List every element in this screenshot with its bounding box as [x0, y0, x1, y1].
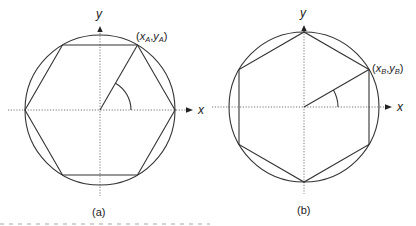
caption-fragment	[0, 221, 416, 226]
angle-arc-a	[116, 83, 132, 110]
point-label-b: (xB,yB)	[372, 62, 403, 76]
panel-label-a: (a)	[92, 206, 105, 218]
panel-label-b: (b)	[297, 204, 310, 216]
panel-a: y x (xA,yA) (a)	[8, 7, 205, 218]
x-axis-label-b: x	[396, 100, 404, 114]
y-axis-arrow-icon	[301, 25, 306, 31]
point-label-a: (xA,yA)	[136, 30, 167, 44]
x-axis-arrow-icon	[385, 104, 392, 109]
panel-b: y x (xB,yB) (b)	[212, 6, 404, 216]
hexagon-diagram: y x (xA,yA) (a) y x (xB,yB) (b)	[0, 0, 416, 226]
x-axis-label-a: x	[197, 103, 205, 117]
y-axis-arrow-icon	[97, 26, 102, 32]
y-axis-label-a: y	[95, 7, 103, 21]
radius-line-b	[304, 70, 369, 108]
angle-arc-b	[333, 90, 338, 107]
x-axis-arrow-icon	[186, 107, 193, 112]
y-axis-label-b: y	[299, 6, 307, 20]
radius-line-a	[100, 45, 138, 110]
